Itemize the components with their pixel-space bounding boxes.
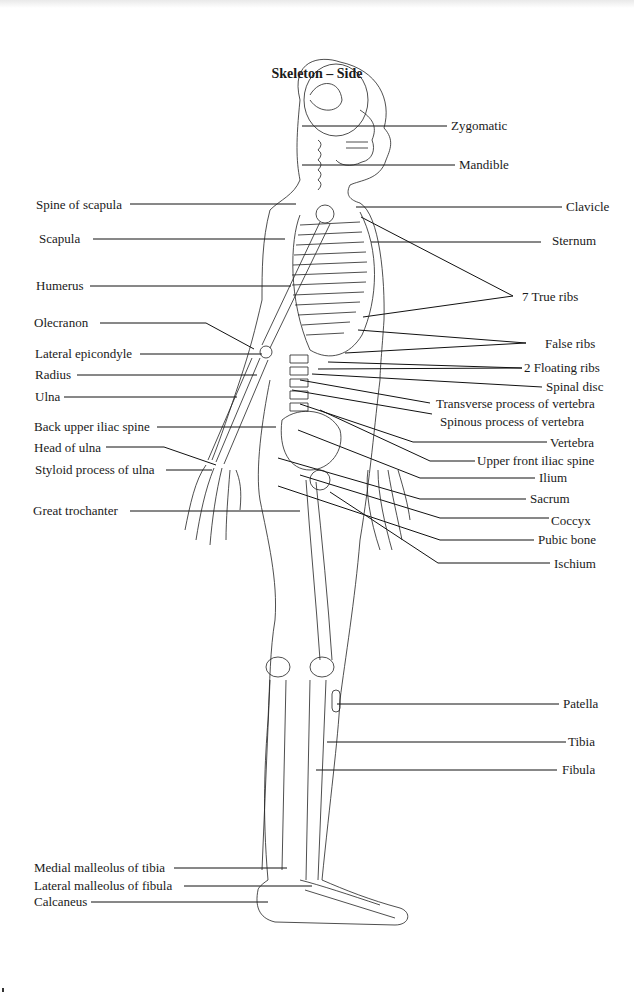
label-sacrum: Sacrum [530,492,570,506]
label-radius: Radius [35,368,71,382]
label-back-upper-iliac-spine: Back upper iliac spine [34,420,150,434]
label-7-true-ribs: 7 True ribs [522,290,578,304]
label-lateral-epicondyle: Lateral epicondyle [35,347,132,361]
label-styloid-process-of-ulna: Styloid process of ulna [35,463,155,477]
label-zygomatic: Zygomatic [451,119,507,133]
label-humerus: Humerus [36,279,84,293]
label-transverse-process-of-vertebra: Transverse process of vertebra [436,397,595,411]
label-clavicle: Clavicle [566,200,609,214]
label-upper-front-iliac-spine: Upper front iliac spine [477,454,594,468]
label-scapula: Scapula [39,232,80,246]
lumbar-spine [290,355,308,411]
label-great-trochanter: Great trochanter [33,504,118,518]
leg-bones [262,480,395,918]
label-pubic-bone: Pubic bone [538,533,596,547]
label-ulna: Ulna [35,390,60,404]
label-head-of-ulna: Head of ulna [34,441,101,455]
leader-lines [64,126,566,902]
body-outline [212,59,408,925]
scan-mark [2,988,4,992]
label-tibia: Tibia [568,735,595,749]
label-sternum: Sternum [552,234,596,248]
label-calcaneus: Calcaneus [34,895,87,909]
label-lateral-malleolus-of-fibula: Lateral malleolus of fibula [34,879,172,893]
label-2-floating-ribs: 2 Floating ribs [524,361,600,375]
rib-cage [292,212,375,356]
label-ischium: Ischium [554,557,596,571]
label-coccyx: Coccyx [551,514,591,528]
label-mandible: Mandible [459,158,509,172]
skull [304,64,374,165]
far-hand [367,470,410,550]
label-false-ribs: False ribs [545,337,595,351]
label-fibula: Fibula [562,763,595,777]
label-spinal-disc: Spinal disc [546,380,603,394]
label-medial-malleolus-of-tibia: Medial malleolus of tibia [34,861,165,875]
label-ilium: Ilium [539,471,567,485]
label-spinous-process-of-vertebra: Spinous process of vertebra [440,415,584,429]
label-olecranon: Olecranon [34,316,88,330]
label-vertebra: Vertebra [550,436,594,450]
label-spine-of-scapula: Spine of scapula [36,198,122,212]
label-patella: Patella [563,697,598,711]
